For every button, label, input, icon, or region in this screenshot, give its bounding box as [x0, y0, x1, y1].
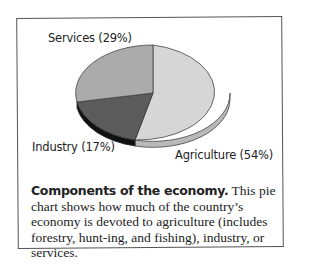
- label-industry: Industry (17%): [32, 140, 115, 154]
- label-services: Services (29%): [48, 31, 132, 45]
- label-agriculture: Agriculture (54%): [175, 148, 273, 162]
- pie-slices: [76, 45, 215, 140]
- figure-caption: Components of the economy. This pie char…: [31, 183, 279, 261]
- slice-services: [76, 45, 153, 102]
- caption-title: Components of the economy.: [31, 183, 228, 198]
